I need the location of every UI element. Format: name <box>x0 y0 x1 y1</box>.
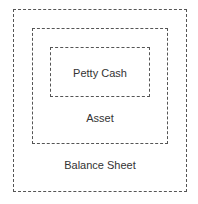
balance-sheet-label: Balance Sheet <box>14 159 186 171</box>
petty-cash-label: Petty Cash <box>51 67 149 79</box>
petty-cash-box: Petty Cash <box>50 47 150 97</box>
asset-label: Asset <box>33 112 167 124</box>
